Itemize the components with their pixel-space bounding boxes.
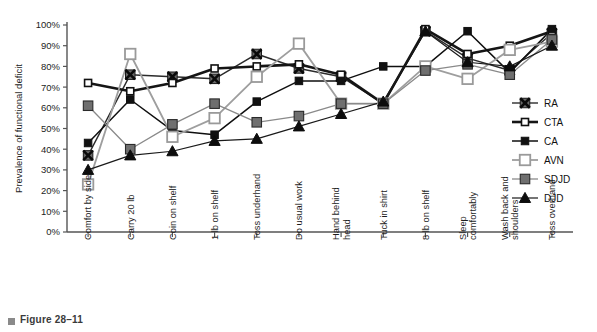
chart-legend: RACTACAAVNSDJDDJD <box>512 98 570 204</box>
legend-marker-cta <box>522 119 529 126</box>
x-tick-label-line: shoulders <box>510 199 520 240</box>
y-tick-label: 30% <box>41 164 61 175</box>
x-tick-label-line: Hand behind <box>331 187 341 240</box>
x-tick-label-line: 1 lb on shelf <box>210 189 220 240</box>
data-point-cta-1 <box>127 88 134 95</box>
x-tick-label-line: 8 lb on shelf <box>421 189 431 240</box>
data-point-cta-4 <box>253 63 260 70</box>
series-line-cta <box>88 29 552 104</box>
x-tick-label: Wash back andshoulders <box>500 176 521 240</box>
series-line-sdjd <box>88 39 552 149</box>
y-tick-label: 70% <box>41 82 61 93</box>
data-point-ra-1 <box>126 70 136 80</box>
legend-label-sdjd: SDJD <box>544 174 570 185</box>
legend-marker-sdjd <box>520 174 530 184</box>
y-axis: 0%10%20%30%40%50%60%70%80%90%100% <box>36 19 67 237</box>
legend-item-sdjd[interactable]: SDJD <box>512 174 570 185</box>
data-point-ca-4 <box>253 98 261 106</box>
figure-container: 0%10%20%30%40%50%60%70%80%90%100% Comfor… <box>0 0 597 332</box>
data-point-avn-9 <box>462 74 473 85</box>
data-point-cta-2 <box>169 79 176 86</box>
prevalence-line-chart: 0%10%20%30%40%50%60%70%80%90%100% Comfor… <box>0 0 597 332</box>
y-tick-label: 50% <box>41 123 61 134</box>
data-point-avn-1 <box>125 49 136 60</box>
x-tick-label: 8 lb on shelf <box>421 189 431 240</box>
y-tick-label: 10% <box>41 206 61 217</box>
data-point-ra-0 <box>83 151 93 161</box>
data-point-sdjd-8 <box>421 66 431 76</box>
x-tick-label-line: Carry 20 lb <box>126 195 136 240</box>
y-axis-title: Prevalence of functional deficit <box>13 64 24 193</box>
data-point-avn-10 <box>505 45 516 56</box>
x-tick-label-line: Comfort by side <box>83 175 93 240</box>
data-point-sdjd-4 <box>252 118 262 128</box>
x-tick-label-line: Wash back and <box>500 176 510 240</box>
data-point-ca-0 <box>84 139 92 147</box>
y-tick-label: 20% <box>41 185 61 196</box>
data-point-avn-5 <box>294 38 305 49</box>
y-tick-label: 80% <box>41 61 61 72</box>
data-point-avn-3 <box>209 113 220 124</box>
figure-caption: Figure 28–11 <box>20 314 83 325</box>
y-tick-label: 100% <box>36 19 61 30</box>
data-point-sdjd-2 <box>168 120 178 130</box>
x-tick-label: Toss overhand <box>547 180 557 240</box>
legend-label-cta: CTA <box>544 117 564 128</box>
data-point-cta-3 <box>211 65 218 72</box>
x-tick-label-line: comfortably <box>468 192 478 240</box>
data-point-ca-5 <box>295 77 303 85</box>
x-axis-tick-labels: Comfort by sideCarry 20 lbCoin on shelf1… <box>83 174 557 240</box>
data-point-ra-4 <box>252 49 262 59</box>
x-tick-label-line: Toss underhand <box>252 174 262 240</box>
data-point-djd-0 <box>82 164 93 174</box>
data-point-ca-9 <box>464 27 472 35</box>
y-axis-title-text: Prevalence of functional deficit <box>13 64 24 193</box>
data-point-sdjd-6 <box>336 99 346 109</box>
y-tick-label: 40% <box>41 144 61 155</box>
data-point-sdjd-0 <box>83 101 93 111</box>
legend-item-cta[interactable]: CTA <box>512 117 564 128</box>
legend-item-ca[interactable]: CA <box>512 136 558 147</box>
x-tick-label: Toss underhand <box>252 174 262 240</box>
x-tick-label-line: Sleep <box>458 216 468 240</box>
legend-label-avn: AVN <box>544 155 564 166</box>
x-tick-label: Carry 20 lb <box>126 195 136 240</box>
x-axis <box>67 232 573 237</box>
data-point-ca-1 <box>127 96 135 104</box>
x-tick-label-line: Tuck in shirt <box>379 190 389 240</box>
legend-label-djd: DJD <box>544 193 563 204</box>
data-point-ca-6 <box>337 77 345 85</box>
legend-item-djd[interactable]: DJD <box>512 192 563 203</box>
x-tick-label: Comfort by side <box>83 175 93 240</box>
y-tick-label: 90% <box>41 40 61 51</box>
legend-item-ra[interactable]: RA <box>512 98 558 109</box>
x-tick-label: Coin on shelf <box>168 185 178 240</box>
x-tick-label-line: Coin on shelf <box>168 185 178 240</box>
data-point-avn-4 <box>252 72 263 83</box>
data-point-avn-2 <box>167 132 178 143</box>
data-point-sdjd-5 <box>294 111 304 121</box>
x-tick-label-line: head <box>342 219 352 240</box>
data-point-cta-5 <box>295 61 302 68</box>
y-tick-label: 0% <box>46 226 60 237</box>
x-tick-label: Hand behindhead <box>331 187 352 240</box>
legend-label-ra: RA <box>544 98 558 109</box>
data-point-cta-0 <box>85 79 92 86</box>
legend-marker-ca <box>521 137 529 145</box>
legend-item-avn[interactable]: AVN <box>512 155 564 166</box>
series-lines <box>88 29 552 184</box>
legend-label-ca: CA <box>544 136 558 147</box>
x-tick-label: Tuck in shirt <box>379 190 389 240</box>
x-tick-label: Sleepcomfortably <box>458 192 479 240</box>
legend-marker-avn <box>520 155 531 166</box>
data-point-sdjd-3 <box>210 99 220 109</box>
square-bullet-icon <box>8 318 15 325</box>
legend-marker-ra <box>520 98 530 108</box>
x-tick-label-line: Do usual work <box>294 181 304 240</box>
x-tick-label: 1 lb on shelf <box>210 189 220 240</box>
y-tick-label: 60% <box>41 102 61 113</box>
x-tick-label: Do usual work <box>294 181 304 240</box>
data-point-ra-3 <box>210 74 220 84</box>
data-point-ca-7 <box>380 63 388 71</box>
data-point-ca-11 <box>548 25 556 33</box>
